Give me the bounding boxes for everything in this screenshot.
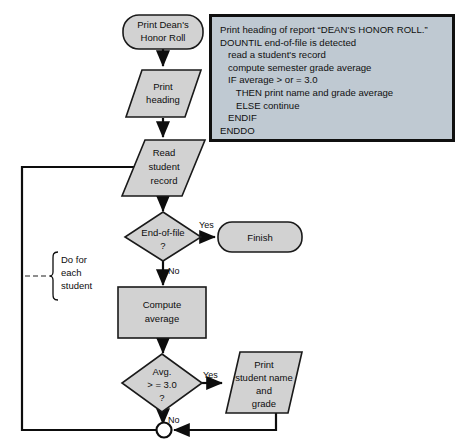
read-record-line3: record: [151, 175, 178, 186]
pseudocode-line: compute semester grade average: [220, 62, 452, 75]
finish-terminal-label: Finish: [247, 232, 272, 243]
print-student-line1: Print: [254, 359, 274, 370]
read-record-line1: Read: [153, 147, 176, 158]
print-student-line4: grade: [252, 398, 276, 409]
compute-average-line2: average: [145, 313, 179, 324]
flowchart-page: Print Dean's Honor Roll Print heading Re…: [0, 0, 467, 445]
print-heading-line1: Print: [153, 81, 173, 92]
eof-decision-line1: End-of-file: [141, 227, 184, 238]
edge-label-eof-yes: Yes: [199, 220, 214, 230]
bracket-label-line2: each: [61, 267, 82, 278]
read-record-line2: student: [148, 161, 180, 172]
pseudocode-line: THEN print name and grade average: [220, 87, 452, 100]
bracket-label-line1: Do for: [61, 254, 87, 265]
compute-average-line1: Compute: [143, 299, 182, 310]
pseudocode-line: ELSE continue: [220, 100, 452, 113]
start-terminal-line1: Print Dean's: [137, 19, 189, 30]
bracket-label-line3: student: [61, 280, 93, 291]
edge-label-avg-yes: Yes: [203, 370, 218, 380]
print-heading-line2: heading: [146, 94, 180, 105]
edge-label-avg-no: No: [168, 415, 180, 425]
eof-decision-line2: ?: [160, 240, 165, 251]
start-terminal-line2: Honor Roll: [141, 32, 186, 43]
pseudocode-line: IF average > or = 3.0: [220, 74, 452, 87]
pseudocode-line: ENDDO: [220, 125, 452, 138]
edge-label-eof-no: No: [168, 266, 180, 276]
avg-decision-line1: Avg.: [153, 366, 172, 377]
pseudocode-panel: Print heading of report “DEAN'S HONOR RO…: [209, 14, 455, 142]
avg-decision-line2: > = 3.0: [147, 379, 177, 390]
avg-decision-line3: ?: [159, 392, 164, 403]
pseudocode-line: DOUNTIL end-of-file is detected: [220, 37, 452, 50]
pseudocode-line: read a student's record: [220, 49, 452, 62]
bracket-curly: [50, 252, 58, 300]
pseudocode-line: Print heading of report “DEAN'S HONOR RO…: [220, 24, 452, 37]
print-student-line2: student name: [235, 372, 293, 383]
pseudocode-line-list: Print heading of report “DEAN'S HONOR RO…: [212, 17, 452, 137]
connector-print-to-junction: [174, 413, 276, 430]
pseudocode-line: ENDIF: [220, 112, 452, 125]
print-student-line3: and: [256, 385, 272, 396]
